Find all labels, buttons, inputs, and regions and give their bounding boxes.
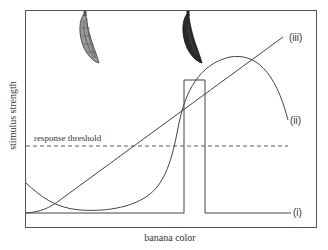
ripe-banana-icon bbox=[183, 11, 202, 63]
x-axis-label: banana color bbox=[120, 232, 220, 243]
figure: (iii) (ii) (i) response threshold stimul… bbox=[0, 0, 328, 250]
unripe-banana-icon bbox=[80, 11, 99, 63]
plot-area bbox=[0, 0, 328, 250]
curve-i bbox=[26, 80, 291, 213]
curve-label-iii: (iii) bbox=[289, 32, 302, 43]
curve-label-ii: (ii) bbox=[290, 115, 301, 126]
threshold-label: response threshold bbox=[34, 133, 101, 143]
curve-iii bbox=[26, 37, 283, 213]
curve-label-i: (i) bbox=[293, 207, 302, 218]
y-axis-label: stimulus strength bbox=[7, 66, 18, 166]
